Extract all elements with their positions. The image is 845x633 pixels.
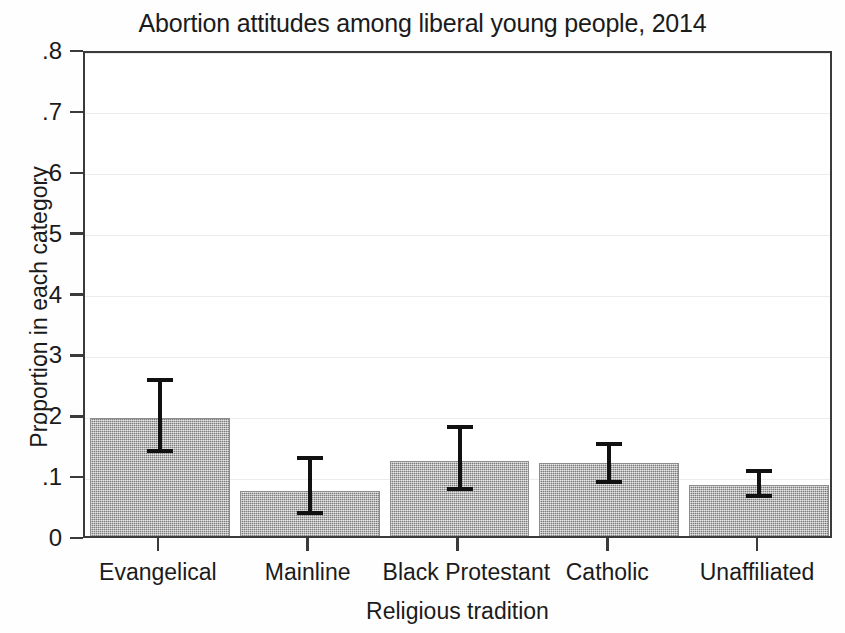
y-axis-tick xyxy=(70,537,83,540)
y-axis-tick-label: .6 xyxy=(4,161,62,185)
x-axis-title: Religious tradition xyxy=(83,598,832,624)
error-bar-cap-lower xyxy=(447,487,473,491)
y-axis-tick-label: .1 xyxy=(4,465,62,489)
x-axis-tick xyxy=(606,538,609,551)
gridline xyxy=(85,357,830,358)
error-bar-stem xyxy=(158,380,162,451)
y-axis-tick-label: .4 xyxy=(4,283,62,307)
error-bar-stem xyxy=(458,427,462,490)
chart-figure: Abortion attitudes among liberal young p… xyxy=(0,0,845,633)
gridline xyxy=(85,235,830,236)
error-bar-cap-lower xyxy=(297,511,323,515)
error-bar-cap-upper xyxy=(746,469,772,473)
y-axis-tick xyxy=(70,354,83,357)
y-axis-tick xyxy=(70,50,83,53)
x-axis-tick xyxy=(456,538,459,551)
error-bar-cap-upper xyxy=(147,378,173,382)
y-axis-tick xyxy=(70,476,83,479)
error-bar-stem xyxy=(607,444,611,482)
gridline xyxy=(85,53,830,54)
y-axis-tick xyxy=(70,415,83,418)
y-axis-tick xyxy=(70,293,83,296)
x-axis-tick-label: Catholic xyxy=(532,558,682,586)
x-axis-tick-label: Mainline xyxy=(233,558,383,586)
x-axis-tick xyxy=(157,538,160,551)
y-axis-tick-label: .2 xyxy=(4,404,62,428)
error-bar-cap-upper xyxy=(447,425,473,429)
x-axis-tick-label: Black Protestant xyxy=(383,558,533,586)
error-bar-stem xyxy=(757,471,761,496)
gridline xyxy=(85,174,830,175)
error-bar-cap-lower xyxy=(746,494,772,498)
y-axis-tick-label: 0 xyxy=(4,526,62,550)
y-axis-tick xyxy=(70,111,83,114)
error-bar-cap-lower xyxy=(147,449,173,453)
y-axis-tick xyxy=(70,232,83,235)
x-axis-tick xyxy=(306,538,309,551)
error-bar-cap-lower xyxy=(596,480,622,484)
y-axis-tick-label: .7 xyxy=(4,100,62,124)
y-axis-tick xyxy=(70,172,83,175)
gridline xyxy=(85,296,830,297)
error-bar-stem xyxy=(308,458,312,512)
x-axis-tick-label: Unaffiliated xyxy=(682,558,832,586)
chart-title: Abortion attitudes among liberal young p… xyxy=(0,8,845,38)
plot-area xyxy=(83,51,832,538)
y-axis-tick-label: .3 xyxy=(4,343,62,367)
y-axis-tick-label: .5 xyxy=(4,222,62,246)
x-axis-tick-label: Evangelical xyxy=(83,558,233,586)
error-bar-cap-upper xyxy=(297,456,323,460)
gridline xyxy=(85,113,830,114)
y-axis-tick-label: .8 xyxy=(4,39,62,63)
x-axis-tick xyxy=(756,538,759,551)
error-bar-cap-upper xyxy=(596,442,622,446)
